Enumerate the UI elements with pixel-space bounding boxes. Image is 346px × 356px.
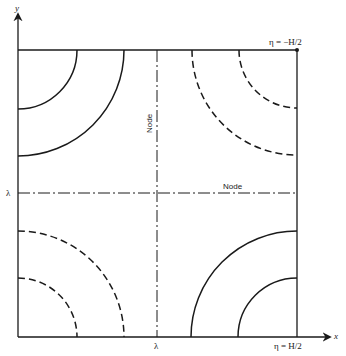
contour-bottom-left-inner — [18, 278, 77, 337]
x-axis-label: x — [334, 332, 338, 341]
contour-top-left-outer — [18, 50, 124, 156]
contour-top-left-inner — [18, 50, 77, 109]
y-tick-label-lambda: λ — [6, 189, 10, 198]
contour-top-right-outer — [192, 50, 297, 155]
x-tick-label-lambda: λ — [154, 342, 158, 351]
contour-bottom-left-outer — [18, 231, 124, 337]
contour-bottom-right-inner — [238, 278, 297, 337]
contour-top-right-inner — [239, 50, 297, 108]
bottom-boundary-label: η = H/2 — [274, 342, 302, 351]
corner-dot — [295, 48, 299, 52]
vertical-node-label: Node — [146, 114, 154, 133]
y-axis-label: y — [15, 4, 19, 13]
top-boundary-label: η = −H/2 — [269, 38, 302, 47]
contour-diagram — [0, 0, 346, 356]
contour-bottom-right-outer — [191, 231, 297, 337]
horizontal-node-label: Node — [223, 183, 242, 191]
